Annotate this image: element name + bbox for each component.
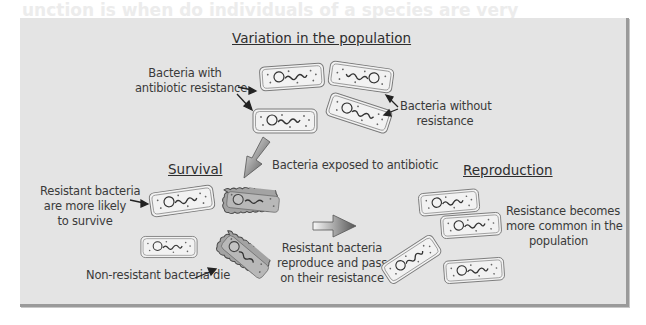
bacterium-resistant-offspring [440, 212, 502, 239]
bacterium-dead [221, 181, 280, 218]
bacterium-resistant-survivor [141, 236, 197, 257]
bacterium-resistant [259, 63, 325, 91]
reproduction-arrow-icon [313, 215, 356, 237]
bacterium-resistant-survivor [149, 185, 216, 218]
diagram-graphics [0, 0, 646, 325]
exposure-arrow-icon [244, 137, 270, 178]
bacterium-dead [213, 224, 276, 284]
bacterium-non-resistant [328, 61, 395, 94]
bacterium-resistant-offspring [380, 234, 443, 286]
bacterium-non-resistant [325, 92, 393, 135]
bacterium-resistant [253, 109, 317, 133]
bacterium-resistant-offspring [443, 257, 505, 284]
bacterium-resistant-offspring [418, 189, 480, 217]
